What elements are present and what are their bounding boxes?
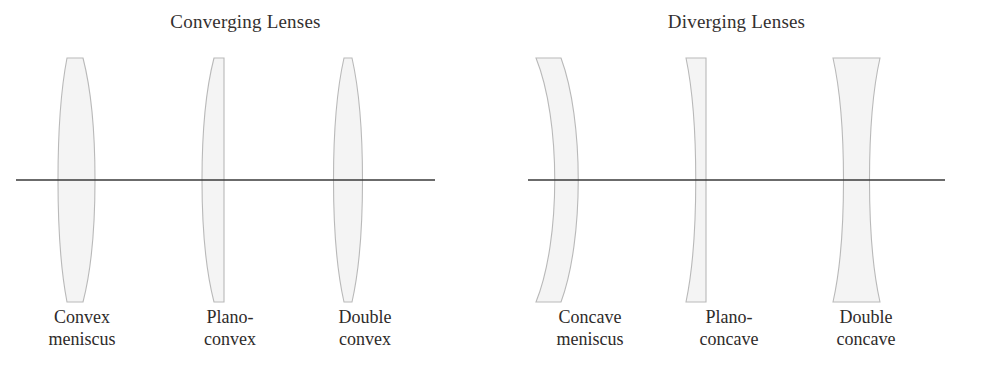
heading-diverging-lenses: Diverging Lenses	[491, 12, 982, 33]
caption-line-2: meniscus	[515, 328, 665, 350]
caption-double-convex: Double convex	[290, 306, 440, 350]
caption-line-2: convex	[290, 328, 440, 350]
caption-concave-meniscus: Concave meniscus	[515, 306, 665, 350]
panel-converging: Converging Lenses	[0, 0, 491, 373]
panel-diverging: Diverging Lenses	[491, 0, 982, 373]
caption-plano-convex: Plano- convex	[155, 306, 305, 350]
lens-stage-converging	[0, 50, 491, 310]
caption-convex-meniscus: Convex meniscus	[7, 306, 157, 350]
caption-line-1: Double	[290, 306, 440, 328]
caption-line-2: meniscus	[7, 328, 157, 350]
lens-types-figure: Converging Lenses	[0, 0, 982, 373]
heading-converging-lenses: Converging Lenses	[0, 12, 491, 33]
caption-line-1: Plano-	[155, 306, 305, 328]
caption-line-1: Double	[791, 306, 941, 328]
caption-row-diverging: Concave meniscus Plano- concave Double c…	[491, 306, 982, 370]
lens-stage-diverging	[491, 50, 982, 310]
caption-row-converging: Convex meniscus Plano- convex Double con…	[0, 306, 491, 370]
caption-line-2: convex	[155, 328, 305, 350]
caption-line-1: Concave	[515, 306, 665, 328]
caption-plano-concave: Plano- concave	[654, 306, 804, 350]
caption-line-1: Convex	[7, 306, 157, 328]
caption-double-concave: Double concave	[791, 306, 941, 350]
caption-line-2: concave	[654, 328, 804, 350]
caption-line-1: Plano-	[654, 306, 804, 328]
caption-line-2: concave	[791, 328, 941, 350]
